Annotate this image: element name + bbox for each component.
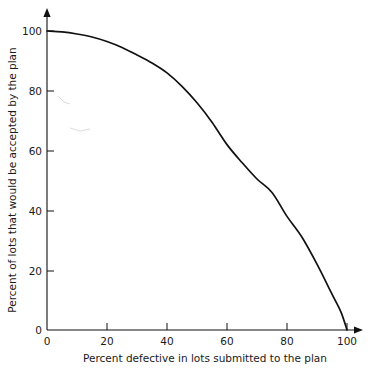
x-axis-arrow-icon	[354, 326, 363, 333]
y-tick-label: 0	[35, 324, 42, 336]
oc-curve-line	[47, 31, 347, 330]
y-axis-arrow-icon	[43, 8, 50, 17]
y-tick-label: 100	[22, 25, 42, 37]
x-tick-label: 60	[220, 335, 233, 347]
x-axis-title: Percent defective in lots submitted to t…	[83, 352, 327, 364]
x-tick-label: 40	[160, 335, 173, 347]
x-tick-label: 20	[100, 335, 113, 347]
paper-smudge	[58, 96, 90, 131]
x-tick-label: 100	[337, 335, 357, 347]
x-axis-tick-labels: 0 20 40 60 80 100	[44, 335, 357, 347]
oc-curve-chart: 100 80 60 40 20 0 0 20 40 60 80 100 Perc…	[0, 0, 375, 370]
x-tick-label: 80	[280, 335, 293, 347]
y-axis-title: Percent of lots that would be accepted b…	[6, 47, 18, 312]
x-axis-ticks	[107, 323, 347, 330]
y-tick-label: 80	[29, 85, 42, 97]
y-tick-label: 60	[29, 145, 42, 157]
chart-canvas: 100 80 60 40 20 0 0 20 40 60 80 100 Perc…	[0, 0, 375, 370]
y-tick-label: 40	[29, 205, 42, 217]
y-tick-label: 20	[29, 265, 42, 277]
y-axis-tick-labels: 100 80 60 40 20 0	[22, 25, 42, 336]
x-tick-label: 0	[44, 335, 51, 347]
y-axis-ticks	[47, 31, 54, 271]
